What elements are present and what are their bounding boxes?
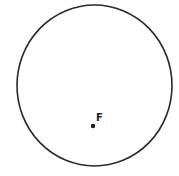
point-f-label: F <box>96 112 103 123</box>
circle <box>17 5 172 166</box>
point-f-dot <box>91 124 95 128</box>
diagram-canvas: F <box>0 0 179 176</box>
